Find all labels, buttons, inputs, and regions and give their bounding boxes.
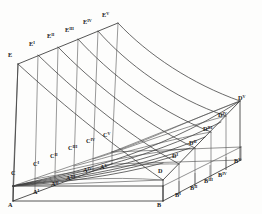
vertex-label-E-3: EIII — [65, 26, 74, 33]
surface-curve-E5 — [118, 23, 240, 101]
vertex-label-E: E — [8, 51, 12, 58]
vertex-label-B-5: BV — [234, 157, 241, 164]
skirt-CV-DV — [112, 101, 240, 152]
vertex-label-D-5: DV — [238, 94, 245, 101]
lower-curve-family — [13, 101, 240, 186]
vertex-label-E-4: EIV — [83, 18, 92, 25]
vertex-label-E-1: EI — [29, 40, 35, 47]
transversal-curves — [13, 101, 240, 186]
vertex-label-B-4: BIV — [218, 171, 227, 178]
edge-E-to-C — [13, 64, 18, 186]
vertex-label-B: B — [157, 201, 161, 208]
figure-root: EEIEIIEIIIEIVEVAAIAIIAIIIAIVAVCCICIICIII… — [0, 0, 262, 214]
vertex-label-B-1: BI — [175, 191, 181, 198]
base-prism — [13, 147, 241, 201]
vertex-label-C-5: CV — [103, 131, 110, 138]
vertex-label-A-1: AI — [33, 188, 39, 195]
vertex-label-E-5: EV — [102, 11, 109, 18]
vertex-label-C-2: CII — [50, 152, 58, 159]
vertex-label-E-2: EII — [47, 32, 55, 39]
surface-curve-E2 — [58, 47, 195, 148]
vertex-label-B-3: BIII — [204, 177, 213, 184]
vertex-label-D-2: DII — [189, 139, 197, 146]
vertex-label-A-5: AV — [100, 163, 107, 170]
geometric-surface-diagram: EEIEIIEIIIEIVEVAAIAIIAIIIAIVAVCCICIICIII… — [0, 0, 262, 214]
edge-D-to-DV — [163, 101, 240, 180]
generator-5 — [112, 23, 118, 152]
vertex-label-C: C — [11, 169, 15, 176]
base-curve-5 — [13, 101, 240, 186]
base-curve-4 — [13, 122, 221, 186]
vertex-label-A: A — [8, 201, 13, 208]
vertex-label-D: D — [158, 167, 163, 174]
d-spine — [163, 101, 240, 201]
vertex-label-D-1: DI — [172, 152, 178, 159]
vertex-label-C-1: CI — [33, 160, 39, 167]
surface-curve-E1 — [38, 55, 179, 164]
vertex-label-C-3: CIII — [68, 144, 78, 151]
generator-verticals — [35, 23, 118, 179]
vertex-label-B-2: BII — [190, 184, 198, 191]
sheet-skirt — [13, 101, 240, 186]
surface-curve-E3 — [78, 39, 211, 132]
